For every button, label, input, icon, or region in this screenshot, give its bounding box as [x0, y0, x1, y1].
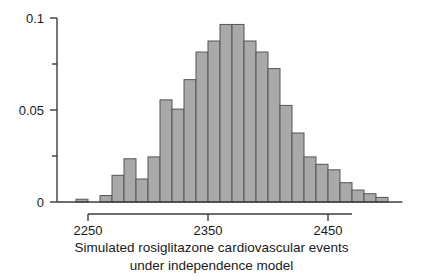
x-axis-tick-label: 2450	[314, 223, 343, 238]
histogram-bar	[172, 109, 184, 202]
histogram-bar	[184, 80, 196, 202]
bars-group	[76, 24, 388, 202]
histogram-svg: 22502350245000.050.1 Simulated rosiglita…	[0, 0, 423, 280]
histogram-bar	[280, 105, 292, 202]
histogram-bar	[100, 196, 112, 202]
histogram-bar	[124, 159, 136, 202]
histogram-bar	[244, 41, 256, 202]
histogram-bar	[112, 175, 124, 202]
histogram-bar	[256, 52, 268, 202]
histogram-bar	[136, 179, 148, 202]
histogram-bar	[292, 133, 304, 202]
histogram-bar	[364, 194, 376, 202]
histogram-bar	[232, 24, 244, 202]
histogram-bar	[316, 164, 328, 202]
histogram-bar	[196, 52, 208, 202]
histogram-bar	[220, 24, 232, 202]
histogram-figure: 22502350245000.050.1 Simulated rosiglita…	[0, 0, 423, 280]
x-axis-tick-label: 2250	[74, 223, 103, 238]
histogram-bar	[208, 41, 220, 202]
y-axis-tick-label: 0.1	[26, 11, 44, 26]
histogram-bar	[352, 190, 364, 202]
plot-area: 22502350245000.050.1 Simulated rosiglita…	[0, 0, 423, 280]
x-axis-caption-line-1: Simulated rosiglitazone cardiovascular e…	[75, 240, 349, 255]
histogram-bar	[160, 100, 172, 202]
histogram-bar	[304, 157, 316, 202]
x-axis-tick-label: 2350	[194, 223, 223, 238]
histogram-bar	[268, 69, 280, 202]
y-axis-tick-label: 0.05	[19, 103, 44, 118]
histogram-bar	[328, 170, 340, 202]
histogram-bar	[340, 183, 352, 202]
y-axis-tick-label: 0	[37, 195, 44, 210]
x-axis-caption-line-2: under independence model	[130, 258, 294, 273]
histogram-bar	[148, 157, 160, 202]
